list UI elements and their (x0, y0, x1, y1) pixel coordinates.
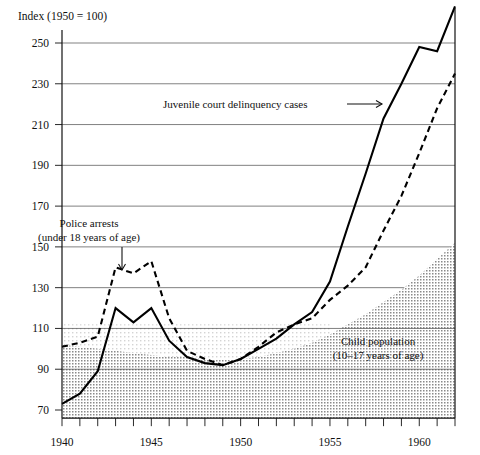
index-header-label: Index (1950 = 100) (18, 10, 107, 23)
y-axis-label-170: 170 (32, 200, 50, 212)
x-axis-label-1945: 1945 (140, 436, 163, 448)
child-population-annotation: Child population (10–17 years of age) (333, 335, 424, 362)
y-axis-label-250: 250 (32, 37, 50, 49)
y-axis-label-90: 90 (38, 363, 50, 375)
juvenile-court-annotation-label: Juvenile court delinquency cases (163, 98, 307, 110)
y-axis-label-110: 110 (32, 322, 49, 334)
y-axis-label-70: 70 (38, 404, 50, 416)
x-axis-label-1960: 1960 (408, 436, 431, 448)
x-axis-label-1950: 1950 (229, 436, 252, 448)
index-trend-line-chart: 2502302101901701501301109070 19401945195… (0, 0, 480, 455)
y-axis-label-230: 230 (32, 78, 50, 90)
child-population-annotation-line1: Child population (341, 335, 416, 347)
x-axis-label-1955: 1955 (318, 436, 341, 448)
child-population-annotation-line2: (10–17 years of age) (333, 349, 424, 362)
y-axis-label-210: 210 (32, 119, 50, 131)
y-axis-label-190: 190 (32, 159, 50, 171)
y-axis-label-130: 130 (32, 282, 50, 294)
police-arrests-annotation-line1: Police arrests (60, 217, 119, 229)
x-axis-label-1940: 1940 (51, 436, 74, 448)
police-arrests-annotation-line2: (under 18 years of age) (38, 231, 140, 244)
chart-container: 2502302101901701501301109070 19401945195… (0, 0, 480, 455)
